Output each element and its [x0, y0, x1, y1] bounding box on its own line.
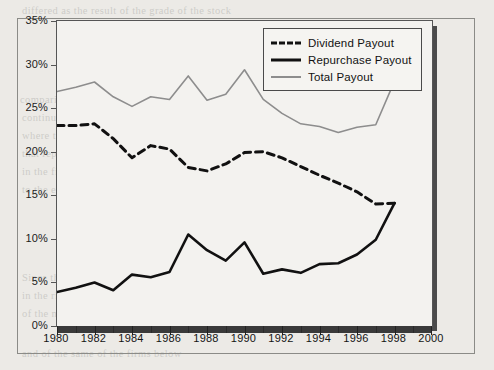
- y-axis-label: 35%: [6, 14, 48, 26]
- bleed-line: differed as the result of the grade of t…: [22, 5, 231, 16]
- x-axis-tick-minor: [338, 326, 339, 333]
- legend-label-dividend: Dividend Payout: [308, 37, 394, 49]
- x-axis-tick-minor: [188, 326, 189, 333]
- x-axis-label: 2000: [418, 332, 443, 344]
- x-axis-label: 1980: [43, 332, 68, 344]
- legend-label-total: Total Payout: [308, 71, 373, 83]
- x-axis-tick-minor: [301, 326, 302, 333]
- x-axis-label: 1998: [381, 332, 406, 344]
- y-axis-label: 25%: [6, 101, 48, 113]
- legend-item-repurchase: Repurchase Payout: [271, 51, 412, 68]
- legend-label-repurchase: Repurchase Payout: [308, 54, 412, 66]
- x-axis-label: 1992: [268, 332, 293, 344]
- x-axis-tick-minor: [226, 326, 227, 333]
- x-axis-label: 1984: [118, 332, 143, 344]
- dividend-line-key: [271, 37, 301, 49]
- x-axis-label: 1990: [231, 332, 256, 344]
- y-axis-tick: [51, 21, 57, 22]
- x-axis-label: 1988: [193, 332, 218, 344]
- y-axis-tick: [51, 108, 57, 109]
- y-axis-label: 15%: [6, 188, 48, 200]
- series-line: [57, 124, 395, 204]
- y-axis-tick: [51, 239, 57, 240]
- legend-item-total: Total Payout: [271, 68, 412, 85]
- y-axis-tick: [51, 282, 57, 283]
- y-axis-label: 0%: [6, 319, 48, 331]
- legend-item-dividend: Dividend Payout: [271, 34, 412, 51]
- x-axis-label: 1994: [306, 332, 331, 344]
- x-axis-tick-minor: [413, 326, 414, 333]
- total-line-key: [271, 71, 301, 83]
- x-axis-label: 1982: [81, 332, 106, 344]
- x-axis-tick-minor: [151, 326, 152, 333]
- x-axis-tick-minor: [263, 326, 264, 333]
- y-axis-label: 10%: [6, 232, 48, 244]
- y-axis-tick: [51, 195, 57, 196]
- y-axis-tick: [51, 65, 57, 66]
- x-axis-label: 1996: [343, 332, 368, 344]
- x-axis-tick-minor: [376, 326, 377, 333]
- y-axis-tick: [51, 152, 57, 153]
- x-axis-label: 1986: [156, 332, 181, 344]
- repurchase-line-key: [271, 54, 301, 66]
- y-axis-label: 30%: [6, 58, 48, 70]
- x-axis-tick-minor: [76, 326, 77, 333]
- series-line: [57, 203, 395, 292]
- chart-legend: Dividend Payout Repurchase Payout Total …: [263, 28, 422, 91]
- y-axis-label: 5%: [6, 275, 48, 287]
- y-axis-label: 20%: [6, 145, 48, 157]
- chart-plot-box: Dividend Payout Repurchase Payout Total …: [56, 20, 433, 327]
- x-axis-tick-minor: [113, 326, 114, 333]
